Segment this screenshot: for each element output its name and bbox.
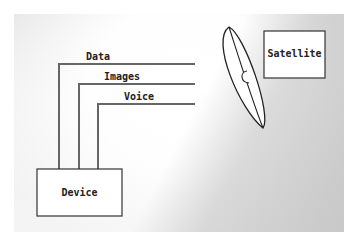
diagram-canvas: Data Images Voice Device Satellite — [0, 0, 356, 243]
link-label-data: Data — [86, 51, 110, 62]
link-voice: Voice — [98, 91, 195, 169]
link-label-voice: Voice — [124, 91, 154, 102]
device-node: Device — [37, 169, 122, 216]
link-images: Images — [79, 71, 195, 169]
satellite-node: Satellite — [264, 31, 325, 78]
satellite-label: Satellite — [267, 48, 321, 59]
satellite-dish-icon — [223, 27, 265, 128]
device-label: Device — [61, 187, 97, 198]
link-label-images: Images — [104, 71, 140, 82]
